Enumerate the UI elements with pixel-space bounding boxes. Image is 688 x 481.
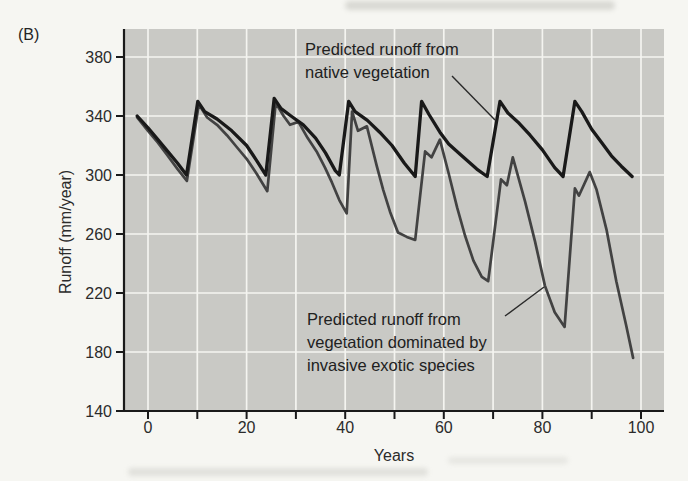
annotation-native-line1: Predicted runoff from [305,38,459,61]
y-axis-title: Runoff (mm/year) [57,170,75,294]
x-axis-title: Years [374,447,414,465]
x-tick-label: 60 [435,419,453,436]
y-tick-label: 220 [85,285,112,302]
x-tick-label: 0 [144,419,153,436]
annotation-invasive-line2: vegetation dominated by [307,331,487,354]
y-tick-label: 300 [85,167,112,184]
annotation-invasive-line1: Predicted runoff from [307,308,487,331]
y-tick-label: 140 [85,403,112,420]
annotation-native-vegetation: Predicted runoff from native vegetation [305,38,459,84]
x-tick-label: 80 [534,419,552,436]
annotation-invasive-line3: invasive exotic species [307,354,487,377]
x-tick-label: 100 [628,419,655,436]
y-tick-label: 380 [85,49,112,66]
y-tick-label: 260 [85,226,112,243]
print-bleed-artifact [345,1,615,10]
x-tick-label: 40 [336,419,354,436]
x-tick-label: 20 [238,419,256,436]
y-tick-label: 180 [85,344,112,361]
annotation-invasive-species: Predicted runoff from vegetation dominat… [307,308,487,377]
y-tick-label: 340 [85,108,112,125]
figure-panel: 020406080100140180220260300340380 (B) Ru… [0,0,688,481]
panel-label: (B) [18,26,39,44]
print-bleed-artifact [128,468,428,476]
print-bleed-artifact [448,457,568,464]
annotation-native-line2: native vegetation [305,61,459,84]
